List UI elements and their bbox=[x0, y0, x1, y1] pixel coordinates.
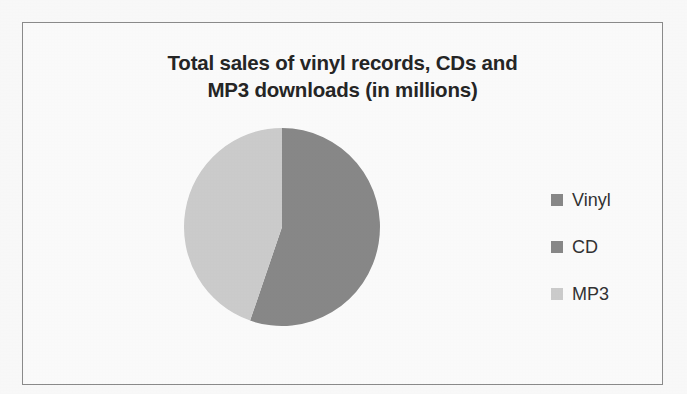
legend-label-mp3: MP3 bbox=[572, 284, 609, 304]
pie-svg bbox=[183, 127, 381, 327]
legend-swatch-cd bbox=[551, 241, 563, 253]
legend-label-vinyl: Vinyl bbox=[572, 190, 611, 210]
plot-area: Vinyl CD MP3 bbox=[23, 23, 664, 386]
chart-frame: Total sales of vinyl records, CDs and MP… bbox=[22, 22, 663, 385]
legend-item-mp3[interactable]: MP3 bbox=[551, 283, 659, 305]
scanned-page: Total sales of vinyl records, CDs and MP… bbox=[0, 0, 687, 394]
legend-item-cd[interactable]: CD bbox=[551, 236, 659, 258]
pie-chart bbox=[183, 127, 381, 327]
chart-legend: Vinyl CD MP3 bbox=[551, 189, 659, 330]
legend-swatch-mp3 bbox=[551, 288, 563, 300]
pie-slice-group bbox=[184, 128, 380, 326]
legend-swatch-vinyl bbox=[551, 194, 563, 206]
legend-label-cd: CD bbox=[572, 237, 598, 257]
legend-item-vinyl[interactable]: Vinyl bbox=[551, 189, 659, 211]
